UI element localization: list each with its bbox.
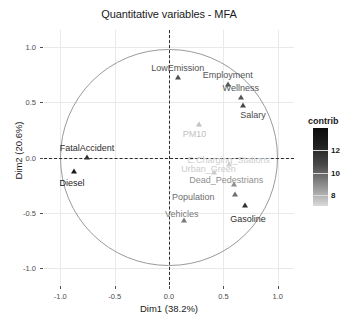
data-point-label: Gasoline bbox=[230, 214, 266, 224]
y-axis-tick-label: -0.5 bbox=[16, 208, 36, 217]
chart-root: Quantitative variables - MFA LowEmission… bbox=[0, 0, 360, 326]
legend-title: contrib bbox=[308, 116, 339, 126]
y-axis-tick-mark bbox=[40, 47, 43, 48]
y-axis-tick-label: 0.5 bbox=[16, 98, 36, 107]
data-point-marker bbox=[196, 122, 202, 127]
y-axis-tick-mark bbox=[40, 268, 43, 269]
x-axis-tick-label: -0.5 bbox=[108, 292, 121, 301]
y-axis-tick-label: 1.0 bbox=[16, 42, 36, 51]
data-point-marker bbox=[242, 203, 248, 208]
data-point-label: Urban_Green bbox=[181, 164, 236, 174]
legend-tick-label: 10 bbox=[331, 168, 340, 177]
x-axis-tick-mark bbox=[169, 286, 170, 289]
x-axis-tick-label: 0.0 bbox=[164, 292, 174, 301]
x-axis-tick-label: 0.5 bbox=[218, 292, 228, 301]
data-point-label: Dead_Pedestrians bbox=[189, 175, 263, 185]
data-point-label: PM10 bbox=[183, 129, 207, 139]
data-point-label: Wellness bbox=[223, 83, 259, 93]
y-axis-tick-mark bbox=[40, 102, 43, 103]
x-axis-tick-mark bbox=[115, 286, 116, 289]
data-point-marker bbox=[238, 95, 244, 100]
data-point-marker bbox=[71, 168, 77, 173]
data-point-marker bbox=[240, 103, 246, 108]
data-point-label: Vehicles bbox=[165, 209, 199, 219]
y-axis-tick-label: 0.0 bbox=[16, 153, 36, 162]
data-point-label: LowEmission bbox=[151, 63, 204, 73]
data-point-label: Salary bbox=[240, 110, 266, 120]
x-axis-tick-mark bbox=[60, 286, 61, 289]
y-axis-title: Dim2 (20.6%) bbox=[13, 91, 24, 211]
data-point-marker bbox=[84, 154, 90, 159]
data-point-marker bbox=[175, 74, 181, 79]
x-axis-tick-label: -1.0 bbox=[54, 292, 67, 301]
x-axis-tick-label: 1.0 bbox=[272, 292, 282, 301]
data-point-label: E.Charging_Stations bbox=[188, 155, 271, 165]
data-point-marker bbox=[232, 191, 238, 196]
data-point-label: Employment bbox=[203, 70, 253, 80]
chart-title: Quantitative variables - MFA bbox=[44, 8, 294, 20]
legend-tick-label: 12 bbox=[331, 146, 340, 155]
legend-tick-mark bbox=[313, 150, 328, 151]
legend-tick-mark bbox=[313, 173, 328, 174]
y-axis-tick-mark bbox=[40, 213, 43, 214]
legend-tick-label: 8 bbox=[331, 190, 335, 199]
legend-tick-mark bbox=[313, 195, 328, 196]
y-axis-tick-mark bbox=[40, 158, 43, 159]
x-axis-tick-mark bbox=[223, 286, 224, 289]
data-point-label: Diesel bbox=[59, 178, 84, 188]
plot-panel: LowEmissionEmploymentWellnessSalaryPM10F… bbox=[44, 30, 294, 285]
y-axis-tick-label: -1.0 bbox=[16, 264, 36, 273]
data-point-label: Population bbox=[172, 192, 215, 202]
x-axis-title: Dim1 (38.2%) bbox=[44, 303, 294, 314]
x-axis-tick-mark bbox=[278, 286, 279, 289]
data-point-label: FatalAccident bbox=[60, 143, 115, 153]
